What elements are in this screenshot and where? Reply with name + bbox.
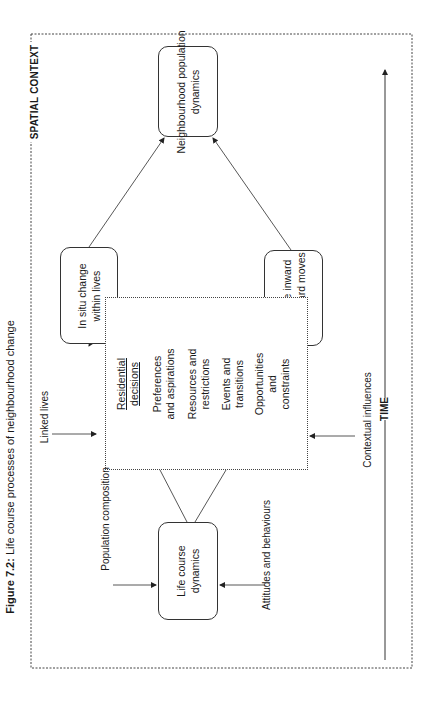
node-label: Life course dynamics [174,545,202,596]
decisions-heading: Residential decisions [115,358,141,410]
decision-factor: Events and transitions [220,357,246,410]
figure-caption-label: Figure 7.2: [4,558,16,614]
decision-factor: Resources and restrictions [186,348,212,419]
node-neighbourhood-population-dynamics: Neighbourhood population dynamics [158,46,218,137]
decision-factor: Preferences and aspirations [151,348,177,419]
node-label: Neighbourhood population dynamics [174,30,202,153]
residential-decisions-box: Residential decisions Preferences and as… [105,297,308,470]
influence-attitudes-behaviours: Attitudes and behaviours [261,500,273,610]
influence-population-composition: Population composition [100,459,112,579]
time-label: TIME [379,394,391,424]
influence-contextual: Contextual influences [362,365,374,475]
figure-caption: Figure 7.2: Life course processes of nei… [3,277,17,657]
spatial-context-label: SPATIAL CONTEXT [29,42,41,142]
node-label: In situ change within lives [75,263,103,328]
decision-factor: Opportunities and constraints [253,352,292,414]
node-life-course-dynamics: Life course dynamics [158,522,218,620]
influence-linked-lives: Linked lives [39,387,51,447]
figure-caption-text: Life course processes of neighbourhood c… [4,320,16,558]
